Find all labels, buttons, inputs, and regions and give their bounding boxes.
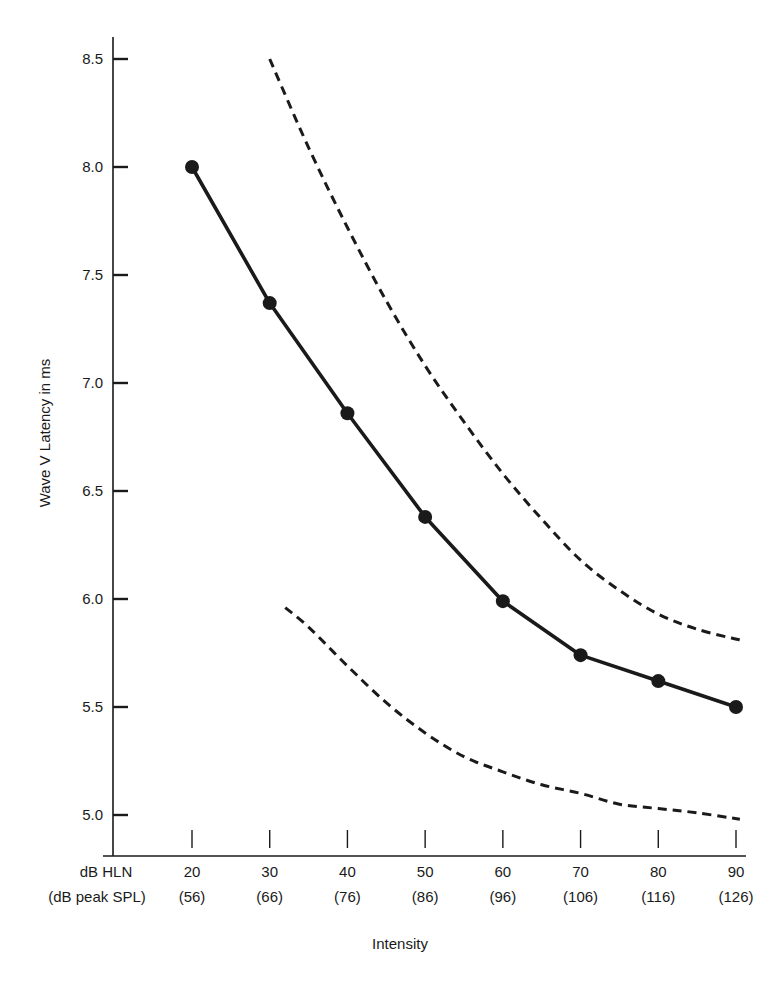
y-tick-label: 5.5 xyxy=(82,698,103,715)
dashed-curve xyxy=(270,59,740,640)
data-point-marker xyxy=(729,700,743,714)
x-tick-sublabel: (66) xyxy=(256,888,283,905)
x-row-label-spl: (dB peak SPL) xyxy=(48,888,146,905)
x-tick-sublabel: (116) xyxy=(641,888,675,905)
x-tick-label: 80 xyxy=(650,863,667,880)
y-tick-label: 8.0 xyxy=(82,158,103,175)
data-point-marker xyxy=(574,648,588,662)
x-tick-sublabel: (76) xyxy=(334,888,361,905)
series-lower-limit xyxy=(285,608,740,820)
x-tick-label: 90 xyxy=(728,863,745,880)
x-tick-label: 60 xyxy=(495,863,512,880)
y-tick-label: 5.0 xyxy=(82,806,103,823)
x-tick-sublabel: (106) xyxy=(563,888,598,905)
x-row-label-hln: dB HLN xyxy=(80,863,133,880)
x-tick-label: 50 xyxy=(417,863,434,880)
data-point-marker xyxy=(185,160,199,174)
data-point-marker xyxy=(651,674,665,688)
dashed-curve xyxy=(285,608,740,820)
latency-intensity-chart: 5.05.56.06.57.07.58.08.5 20(56)30(66)40(… xyxy=(0,0,780,987)
y-tick-label: 7.0 xyxy=(82,374,103,391)
x-tick-label: 40 xyxy=(339,863,356,880)
x-tick-sublabel: (96) xyxy=(490,888,517,905)
x-tick-label: 20 xyxy=(184,863,201,880)
series-layer xyxy=(185,59,743,819)
x-axis-title: Intensity xyxy=(372,935,428,952)
y-axis-title: Wave V Latency in ms xyxy=(36,359,53,508)
data-point-marker xyxy=(496,594,510,608)
x-tick-sublabel: (126) xyxy=(718,888,753,905)
y-axis-ticks: 5.05.56.06.57.07.58.08.5 xyxy=(82,50,128,823)
y-tick-label: 7.5 xyxy=(82,266,103,283)
y-tick-label: 6.0 xyxy=(82,590,103,607)
series-mean-latency xyxy=(185,160,743,714)
y-tick-label: 6.5 xyxy=(82,482,103,499)
x-axis-ticks: 20(56)30(66)40(76)50(86)60(96)70(106)80(… xyxy=(179,830,754,905)
x-tick-sublabel: (56) xyxy=(179,888,206,905)
data-point-marker xyxy=(340,406,354,420)
y-tick-label: 8.5 xyxy=(82,50,103,67)
data-point-marker xyxy=(263,296,277,310)
x-tick-sublabel: (86) xyxy=(412,888,439,905)
x-tick-label: 70 xyxy=(572,863,589,880)
series-upper-limit xyxy=(270,59,740,640)
solid-line xyxy=(192,167,736,707)
x-tick-label: 30 xyxy=(261,863,278,880)
data-point-marker xyxy=(418,510,432,524)
